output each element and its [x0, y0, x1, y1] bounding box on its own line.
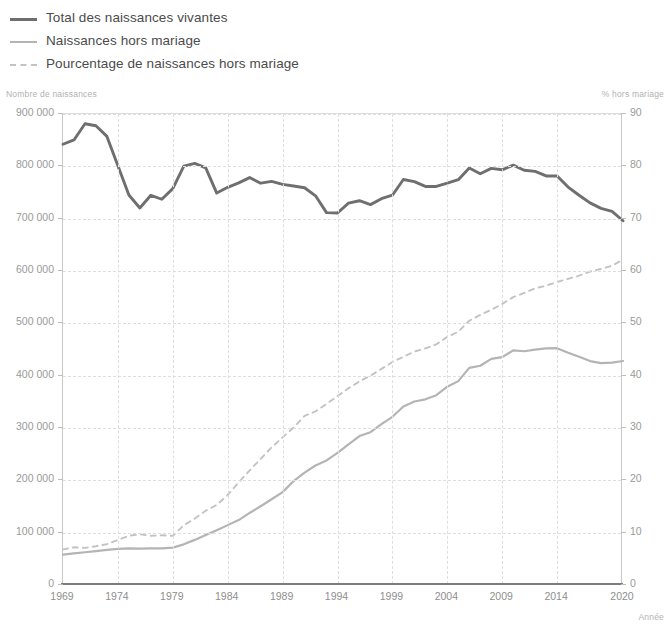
y-axis-tick-label: 500 000	[16, 315, 54, 327]
y2-axis-tick-label: 20	[630, 472, 642, 484]
series-line	[63, 259, 623, 549]
y2-axis-tick-label: 30	[630, 420, 642, 432]
legend-item-total: Total des naissances vivantes	[10, 6, 299, 29]
axis-tick-mark	[621, 532, 626, 533]
y-gridline	[63, 533, 621, 534]
series-line	[63, 124, 623, 221]
x-gridline	[502, 114, 503, 584]
right-axis-caption: % hors mariage	[602, 89, 664, 99]
x-axis-tick-label: 1984	[197, 590, 257, 602]
legend-label-hors-mariage: Naissances hors mariage	[46, 33, 201, 48]
x-gridline	[392, 114, 393, 584]
axis-tick-mark	[58, 375, 63, 376]
axis-tick-mark	[621, 218, 626, 219]
y2-axis-tick-label: 40	[630, 368, 642, 380]
axis-tick-mark	[58, 270, 63, 271]
y-gridline	[63, 166, 621, 167]
series-line	[63, 348, 623, 554]
axis-tick-mark	[621, 479, 626, 480]
legend-item-pourcentage: Pourcentage de naissances hors mariage	[10, 52, 299, 75]
y-axis-tick-label: 0	[48, 577, 54, 589]
y-gridline	[63, 323, 621, 324]
x-axis-line	[61, 583, 623, 585]
axis-tick-mark	[58, 113, 63, 114]
y-axis-tick-label: 700 000	[16, 211, 54, 223]
legend-line-total-icon	[10, 12, 37, 24]
y2-axis-tick-label: 10	[630, 525, 642, 537]
x-axis-tick-label: 1979	[142, 590, 202, 602]
y-gridline	[63, 376, 621, 377]
legend-label-total: Total des naissances vivantes	[46, 10, 228, 25]
y2-axis-tick-label: 70	[630, 211, 642, 223]
y-gridline	[63, 428, 621, 429]
x-axis-tick-label: 1994	[307, 590, 367, 602]
y2-axis-tick-label: 80	[630, 158, 642, 170]
axis-tick-mark	[621, 165, 626, 166]
y-axis-tick-label: 800 000	[16, 158, 54, 170]
x-axis-tick-label: 2020	[592, 590, 652, 602]
x-axis-caption: Année	[638, 612, 664, 622]
x-axis-tick-label: 1999	[361, 590, 421, 602]
x-gridline	[118, 114, 119, 584]
y2-axis-tick-label: 90	[630, 106, 642, 118]
axis-tick-mark	[58, 584, 63, 585]
x-gridline	[447, 114, 448, 584]
axis-tick-mark	[58, 322, 63, 323]
legend-line-hors-mariage-icon	[10, 35, 37, 47]
legend-line-pourcentage-icon	[10, 58, 37, 70]
y-axis-tick-label: 300 000	[16, 420, 54, 432]
births-chart: Total des naissances vivantes Naissances…	[0, 0, 668, 627]
series-lines	[63, 114, 623, 585]
chart-legend: Total des naissances vivantes Naissances…	[10, 6, 299, 75]
x-axis-tick-label: 1969	[32, 590, 92, 602]
y-gridline	[63, 271, 621, 272]
y2-axis-tick-label: 0	[630, 577, 636, 589]
axis-tick-mark	[58, 532, 63, 533]
axis-tick-mark	[621, 322, 626, 323]
x-axis-tick-label: 2004	[416, 590, 476, 602]
y-axis-tick-label: 600 000	[16, 263, 54, 275]
y2-axis-tick-label: 50	[630, 315, 642, 327]
y-axis-tick-label: 900 000	[16, 106, 54, 118]
x-axis-tick-label: 2014	[526, 590, 586, 602]
y-axis-tick-label: 200 000	[16, 472, 54, 484]
y-gridline	[63, 114, 621, 115]
x-gridline	[557, 114, 558, 584]
y-axis-tick-label: 100 000	[16, 525, 54, 537]
axis-tick-mark	[621, 113, 626, 114]
axis-tick-mark	[58, 218, 63, 219]
y2-axis-tick-label: 60	[630, 263, 642, 275]
x-gridline	[283, 114, 284, 584]
x-axis-tick-label: 2009	[471, 590, 531, 602]
y-gridline	[63, 480, 621, 481]
legend-label-pourcentage: Pourcentage de naissances hors mariage	[46, 56, 299, 71]
axis-tick-mark	[621, 427, 626, 428]
left-axis-caption: Nombre de naissances	[6, 89, 97, 99]
axis-tick-mark	[621, 375, 626, 376]
x-axis-tick-label: 1974	[87, 590, 147, 602]
legend-item-hors-mariage: Naissances hors mariage	[10, 29, 299, 52]
axis-tick-mark	[58, 427, 63, 428]
x-gridline	[173, 114, 174, 584]
axis-tick-mark	[621, 270, 626, 271]
x-axis-tick-label: 1989	[252, 590, 312, 602]
y-gridline	[63, 219, 621, 220]
axis-tick-mark	[621, 584, 626, 585]
x-gridline	[228, 114, 229, 584]
axis-tick-mark	[58, 165, 63, 166]
plot-area	[62, 113, 622, 584]
y-axis-tick-label: 400 000	[16, 368, 54, 380]
axis-tick-mark	[58, 479, 63, 480]
x-gridline	[338, 114, 339, 584]
